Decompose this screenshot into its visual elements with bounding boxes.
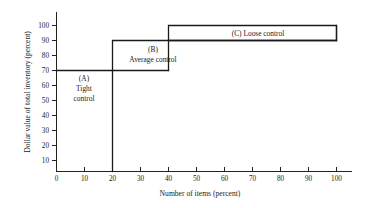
y-tick-label: 50 [42, 97, 50, 105]
x-tick-label: 50 [193, 175, 201, 183]
x-tick-label: 20 [109, 175, 117, 183]
y-axis-title: Dollar value of total inventory (percent… [23, 31, 32, 153]
x-tick-label: 40 [165, 175, 173, 183]
x-tick-label: 60 [221, 175, 229, 183]
x-tick-label: 0 [55, 175, 59, 183]
y-tick-label: 60 [42, 82, 50, 90]
zone-a-annotation: (A) Tight control [74, 74, 95, 103]
y-tick-label: 70 [42, 67, 50, 75]
y-tick-label: 100 [38, 22, 49, 30]
zone-c-annotation: (C) Loose control [232, 29, 285, 38]
y-tick-labels: 10 20 30 40 50 60 70 80 90 100 [38, 22, 49, 165]
x-tick-label: 80 [277, 175, 285, 183]
x-axis-title: Number of items (percent) [160, 189, 241, 198]
x-tick-label: 70 [249, 175, 257, 183]
zone-b-line2: Average control [129, 55, 176, 64]
zone-b-line1: (B) [148, 45, 158, 54]
zone-c-line1: (C) Loose control [232, 29, 285, 38]
y-tick-label: 40 [42, 112, 50, 120]
zone-a-line2: Tight [76, 84, 93, 93]
chart-plot-area: 10 20 30 40 50 60 70 80 90 100 0 10 20 3… [0, 0, 370, 208]
y-tick-label: 80 [42, 52, 50, 60]
zone-a-line3: control [74, 94, 95, 103]
x-tick-label: 10 [81, 175, 89, 183]
y-axis-ticks [52, 26, 57, 161]
x-tick-labels: 0 10 20 30 40 50 60 70 80 90 100 [55, 175, 343, 183]
y-tick-label: 10 [42, 157, 50, 165]
y-tick-label: 30 [42, 127, 50, 135]
x-tick-label: 90 [305, 175, 313, 183]
abc-analysis-chart-figure: 10 20 30 40 50 60 70 80 90 100 0 10 20 3… [0, 0, 370, 208]
abc-step-curve [57, 26, 337, 71]
x-tick-label: 100 [331, 175, 342, 183]
x-axis-ticks [57, 167, 337, 172]
y-tick-label: 20 [42, 142, 50, 150]
x-tick-label: 30 [137, 175, 145, 183]
y-tick-label: 90 [42, 37, 50, 45]
zone-b-annotation: (B) Average control [129, 45, 176, 64]
zone-a-line1: (A) [79, 74, 90, 83]
